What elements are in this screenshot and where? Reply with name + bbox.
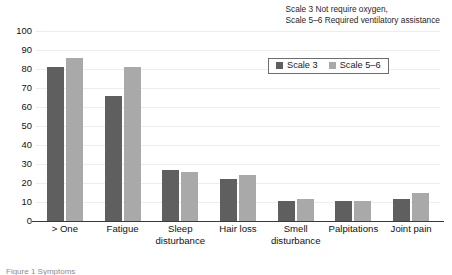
- y-axis-tick-label: 20: [22, 178, 32, 187]
- category-label-line: Smell: [267, 223, 325, 235]
- legend: Scale 3Scale 5–6: [268, 58, 389, 74]
- x-axis-category-label: Hair loss: [209, 223, 267, 235]
- bar: [47, 67, 64, 221]
- x-axis-category-label: Sleepdisturbance: [151, 223, 209, 246]
- bar: [412, 193, 429, 221]
- bar: [105, 96, 122, 221]
- x-axis-category-label: Joint pain: [382, 223, 440, 235]
- bar: [354, 201, 371, 221]
- y-axis-tick-label: 100: [16, 26, 32, 35]
- legend-entry: Scale 3: [276, 61, 318, 70]
- legend-swatch-icon: [329, 62, 336, 69]
- x-axis-category-label: Palpitations: [325, 223, 383, 235]
- y-axis-tick-label: 40: [22, 140, 32, 149]
- bar-chart-figure: Scale 3 Not require oxygen, Scale 5–6 Re…: [0, 0, 452, 275]
- bar-group: [393, 31, 429, 221]
- category-label-line: Fatigue: [94, 223, 152, 235]
- x-axis-category-labels: > OneFatigueSleepdisturbanceHair lossSme…: [36, 223, 440, 263]
- legend-label: Scale 3: [287, 61, 318, 70]
- y-axis-tick-label: 70: [22, 83, 32, 92]
- bar: [297, 199, 314, 221]
- x-axis-category-label: Fatigue: [94, 223, 152, 235]
- bar: [162, 170, 179, 221]
- bar: [335, 201, 352, 221]
- scale-definition-note: Scale 3 Not require oxygen, Scale 5–6 Re…: [285, 4, 440, 26]
- x-axis-category-label: > One: [36, 223, 94, 235]
- bar: [239, 175, 256, 221]
- y-axis-tick-label: 80: [22, 64, 32, 73]
- category-label-line: Palpitations: [325, 223, 383, 235]
- y-axis-tick-label: 60: [22, 102, 32, 111]
- figure-caption: Figure 1 Symptoms: [6, 267, 446, 275]
- x-axis-category-label: Smelldisturbance: [267, 223, 325, 246]
- bar: [124, 67, 141, 221]
- category-label-line: disturbance: [151, 235, 209, 247]
- legend-swatch-icon: [276, 62, 283, 69]
- bar: [181, 172, 198, 221]
- bar: [393, 199, 410, 221]
- bar-group: [47, 31, 83, 221]
- scale-definition-line-1: Scale 3 Not require oxygen,: [285, 4, 440, 15]
- category-label-line: Joint pain: [382, 223, 440, 235]
- bar-group: [162, 31, 198, 221]
- y-axis-tick-label: 10: [22, 197, 32, 206]
- scale-definition-line-2: Scale 5–6 Required ventilatory assistanc…: [285, 15, 440, 26]
- bar-group: [220, 31, 256, 221]
- bar: [278, 201, 295, 221]
- bar-group: [105, 31, 141, 221]
- legend-label: Scale 5–6: [340, 61, 381, 70]
- y-axis-tick-label: 50: [22, 121, 32, 130]
- category-label-line: Hair loss: [209, 223, 267, 235]
- bar: [66, 58, 83, 221]
- category-label-line: disturbance: [267, 235, 325, 247]
- x-axis-line: [32, 221, 444, 222]
- y-axis-tick-label: 30: [22, 159, 32, 168]
- category-label-line: > One: [36, 223, 94, 235]
- category-label-line: Sleep: [151, 223, 209, 235]
- bar: [220, 179, 237, 221]
- legend-entry: Scale 5–6: [329, 61, 381, 70]
- y-axis-tick-label: 90: [22, 45, 32, 54]
